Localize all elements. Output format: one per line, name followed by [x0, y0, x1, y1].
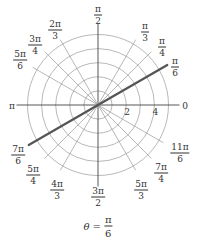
spoke-line	[60, 40, 98, 105]
angle-label-pi-6: π6	[171, 57, 179, 78]
angle-label-pi-3: π3	[141, 22, 149, 43]
angle-label-4pi-3: 4π3	[50, 180, 64, 201]
radius-label: 2	[124, 107, 130, 117]
angle-label-5pi-6: 5π6	[13, 50, 27, 71]
angle-label-pi: π	[9, 102, 15, 111]
angle-label-11pi-6: 11π6	[170, 143, 189, 164]
angle-label-5pi-4: 5π4	[26, 165, 40, 186]
angle-label-pi-2: π2	[94, 5, 102, 26]
caption-lhs: θ =	[83, 221, 101, 232]
spoke-line	[98, 105, 136, 170]
angle-label-7pi-4: 7π4	[154, 163, 168, 184]
angle-label-3pi-2: 3π2	[91, 187, 105, 208]
angle-label-2pi-3: 2π3	[48, 20, 62, 41]
angle-label-0: 0	[182, 102, 188, 111]
radius-label: 4	[153, 107, 159, 117]
caption-theta-equation: θ = π 6	[83, 214, 112, 239]
angle-label-7pi-6: 7π6	[11, 145, 25, 166]
angle-label-5pi-3: 5π3	[134, 180, 148, 201]
angle-label-pi-4: π4	[158, 37, 166, 58]
caption-fraction: π 6	[104, 214, 113, 239]
caption-numerator: π	[104, 214, 113, 227]
spoke-line	[33, 67, 98, 105]
angle-label-3pi-4: 3π4	[28, 35, 42, 56]
caption-denominator: 6	[105, 227, 111, 239]
